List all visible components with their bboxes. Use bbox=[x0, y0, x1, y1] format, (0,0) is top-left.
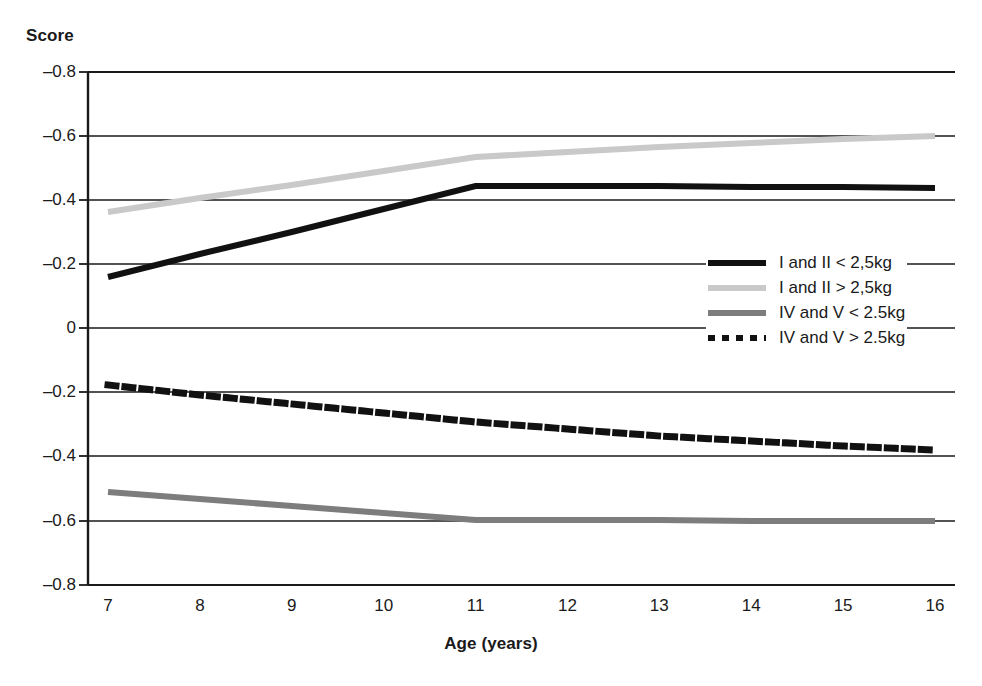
legend-swatch-icon bbox=[708, 281, 766, 295]
legend-item[interactable]: IV and V < 2.5kg bbox=[708, 300, 905, 325]
series-line bbox=[108, 385, 935, 450]
legend-swatch-icon bbox=[708, 256, 766, 270]
legend-swatch-icon bbox=[708, 331, 766, 345]
legend-item[interactable]: I and II > 2,5kg bbox=[708, 275, 905, 300]
chart-legend: I and II < 2,5kgI and II > 2,5kgIV and V… bbox=[706, 246, 907, 354]
legend-label: IV and V > 2.5kg bbox=[779, 329, 905, 346]
legend-item[interactable]: IV and V > 2.5kg bbox=[708, 325, 905, 350]
chart-figure: Score –0.8–0.6–0.4–0.20–0.2–0.4–0.6–0.8 … bbox=[0, 0, 982, 686]
legend-swatch-icon bbox=[708, 306, 766, 320]
series-line bbox=[108, 492, 935, 521]
legend-label: I and II < 2,5kg bbox=[779, 254, 892, 271]
legend-label: IV and V < 2.5kg bbox=[779, 304, 905, 321]
legend-item[interactable]: I and II < 2,5kg bbox=[708, 250, 905, 275]
legend-label: I and II > 2,5kg bbox=[779, 279, 892, 296]
axis-tick-marks bbox=[79, 72, 88, 585]
